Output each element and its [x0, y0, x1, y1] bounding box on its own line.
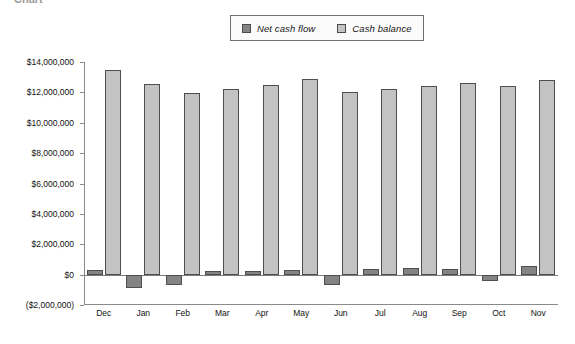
- y-tick-label: $10,000,000: [27, 118, 74, 128]
- bar-cash-balance[interactable]: [342, 92, 358, 275]
- bar-net-cash-flow[interactable]: [403, 268, 419, 275]
- y-axis-tick: [80, 244, 84, 245]
- y-axis-tick: [80, 153, 84, 154]
- bar-cash-balance[interactable]: [184, 93, 200, 274]
- bar-cash-balance[interactable]: [223, 89, 239, 275]
- y-axis-line: [84, 62, 85, 305]
- legend-label: Cash balance: [352, 23, 411, 34]
- x-axis-labels: DecJanFebMarAprMayJunJulAugSepOctNov: [84, 308, 558, 326]
- bar-cash-balance[interactable]: [500, 86, 516, 275]
- y-tick-label: ($2,000,000): [26, 300, 74, 310]
- y-axis-tick: [80, 123, 84, 124]
- bar-cash-balance[interactable]: [144, 84, 160, 275]
- y-tick-label: $4,000,000: [31, 209, 74, 219]
- bar-net-cash-flow[interactable]: [284, 270, 300, 275]
- y-tick-label: $0: [65, 270, 74, 280]
- chart-legend: Net cash flowCash balance: [230, 15, 424, 41]
- y-axis-tick: [80, 305, 84, 306]
- bar-net-cash-flow[interactable]: [324, 275, 340, 286]
- x-tick-label: Jun: [334, 308, 348, 318]
- x-tick-label: Jan: [136, 308, 150, 318]
- x-axis-line: [84, 304, 558, 305]
- x-tick-label: Nov: [531, 308, 546, 318]
- bar-net-cash-flow[interactable]: [442, 269, 458, 275]
- y-tick-label: $14,000,000: [27, 57, 74, 67]
- legend-item-1[interactable]: Cash balance: [337, 23, 411, 34]
- legend-swatch-icon: [242, 24, 251, 33]
- legend-swatch-icon: [337, 24, 346, 33]
- cut-off-heading-text: Chart: [14, 0, 194, 5]
- cash-flow-chart: Chart Net cash flowCash balance $14,000,…: [0, 0, 575, 344]
- y-tick-label: $2,000,000: [31, 239, 74, 249]
- bar-cash-balance[interactable]: [421, 86, 437, 275]
- legend-label: Net cash flow: [257, 23, 315, 34]
- x-tick-label: Mar: [215, 308, 230, 318]
- x-tick-label: Sep: [452, 308, 467, 318]
- y-tick-label: $6,000,000: [31, 179, 74, 189]
- cut-off-heading: Chart: [14, 0, 194, 6]
- bar-net-cash-flow[interactable]: [521, 266, 537, 274]
- x-tick-label: Aug: [412, 308, 427, 318]
- bar-cash-balance[interactable]: [460, 83, 476, 275]
- bar-cash-balance[interactable]: [105, 70, 121, 274]
- bar-net-cash-flow[interactable]: [166, 275, 182, 286]
- bar-cash-balance[interactable]: [381, 89, 397, 274]
- bar-cash-balance[interactable]: [539, 80, 555, 274]
- x-tick-label: Apr: [255, 308, 268, 318]
- plot-area: [84, 62, 558, 305]
- x-tick-label: Jul: [375, 308, 386, 318]
- bar-net-cash-flow[interactable]: [482, 275, 498, 281]
- bar-cash-balance[interactable]: [263, 85, 279, 275]
- y-tick-label: $8,000,000: [31, 148, 74, 158]
- x-tick-label: Oct: [492, 308, 505, 318]
- bar-net-cash-flow[interactable]: [126, 275, 142, 289]
- y-tick-label: $12,000,000: [27, 87, 74, 97]
- y-axis-tick: [80, 62, 84, 63]
- x-tick-label: Feb: [175, 308, 190, 318]
- x-tick-label: Dec: [96, 308, 111, 318]
- y-axis-tick: [80, 92, 84, 93]
- bar-net-cash-flow[interactable]: [245, 271, 261, 275]
- y-axis-tick: [80, 184, 84, 185]
- x-tick-label: May: [293, 308, 309, 318]
- bar-net-cash-flow[interactable]: [205, 271, 221, 275]
- y-axis-labels: $14,000,000$12,000,000$10,000,000$8,000,…: [0, 62, 80, 305]
- bar-net-cash-flow[interactable]: [87, 270, 103, 275]
- bar-cash-balance[interactable]: [302, 79, 318, 275]
- legend-item-0[interactable]: Net cash flow: [242, 23, 315, 34]
- y-axis-tick: [80, 214, 84, 215]
- bar-net-cash-flow[interactable]: [363, 269, 379, 275]
